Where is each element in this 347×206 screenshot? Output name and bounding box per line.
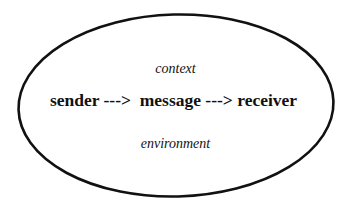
sender-message-receiver-flow: sender ---> message ---> receiver	[0, 92, 347, 110]
environment-label: environment	[0, 137, 347, 151]
context-label: context	[0, 62, 347, 76]
